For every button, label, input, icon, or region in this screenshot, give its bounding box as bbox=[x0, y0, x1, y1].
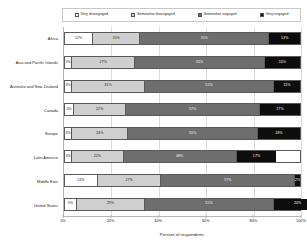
bar-segment[interactable]: 22% bbox=[74, 104, 126, 115]
bar-segment-value: 3% bbox=[65, 155, 70, 159]
legend-item-label: Very disengaged bbox=[81, 13, 109, 17]
bar-rows: 12%20%55%13%3%27%55%15%3%31%55%11%4%22%5… bbox=[64, 27, 301, 216]
bar-row[interactable]: 12%20%55%13% bbox=[64, 32, 301, 45]
category-label-1: Asia and Pacific Islands bbox=[0, 56, 61, 69]
bar-segment-value: 4% bbox=[67, 108, 72, 112]
bar-segment[interactable]: 15% bbox=[265, 57, 300, 68]
bar-row[interactable]: 3%24%55%18% bbox=[64, 127, 301, 140]
bar-row[interactable]: 3%27%55%15% bbox=[64, 56, 301, 69]
plot-area: 12%20%55%13%3%27%55%15%3%31%55%11%4%22%5… bbox=[63, 27, 301, 217]
x-axis-ticks: 0%20%40%60%80%100% bbox=[63, 218, 301, 227]
bar-segment-value: 22% bbox=[94, 155, 101, 159]
bar-segment-value: 22% bbox=[96, 108, 103, 112]
bar-segment[interactable]: 20% bbox=[274, 199, 307, 210]
bar-row[interactable]: 14%27%57%2% bbox=[64, 174, 301, 187]
x-axis-title: Percent of respondents bbox=[63, 232, 301, 237]
legend-swatch-icon bbox=[131, 13, 135, 17]
legend-swatch-icon bbox=[198, 13, 202, 17]
bar-segment-value: 12% bbox=[75, 37, 82, 41]
gridline bbox=[301, 27, 302, 216]
bar-segment-value: 27% bbox=[125, 179, 132, 183]
category-axis-labels: AfricaAsia and Pacific IslandsAustralia … bbox=[0, 27, 61, 217]
legend-item-label: Very engaged bbox=[266, 13, 289, 17]
bar-segment[interactable]: 55% bbox=[135, 57, 264, 68]
chart-legend: Very disengagedSomewhat disengagedSomewh… bbox=[62, 8, 301, 22]
bar-segment[interactable]: 24% bbox=[72, 128, 128, 139]
bar-segment-value: 24% bbox=[96, 132, 103, 136]
bar-segment-value: 11% bbox=[284, 84, 291, 88]
stacked-bar-chart: Very disengagedSomewhat disengagedSomewh… bbox=[0, 0, 307, 249]
legend-item-3[interactable]: Very engaged bbox=[260, 13, 289, 17]
category-label-7: United States bbox=[0, 199, 61, 212]
bar-segment-value: 5% bbox=[68, 202, 73, 206]
category-label-6: Middle East bbox=[0, 175, 61, 188]
bar-segment[interactable]: 55% bbox=[145, 199, 274, 210]
bar-segment-value: 13% bbox=[281, 37, 288, 41]
category-label-5: Latin America bbox=[0, 151, 61, 164]
bar-segment-value: 29% bbox=[107, 202, 114, 206]
bar-segment[interactable]: 57% bbox=[161, 175, 295, 186]
bar-segment[interactable]: 57% bbox=[126, 104, 260, 115]
bar-segment-value: 3% bbox=[65, 61, 70, 65]
bar-segment[interactable]: 17% bbox=[260, 104, 300, 115]
bar-segment[interactable]: 29% bbox=[77, 199, 145, 210]
bar-row[interactable]: 3%22%48%17% bbox=[64, 150, 301, 163]
bar-segment[interactable]: 55% bbox=[140, 33, 269, 44]
legend-item-0[interactable]: Very disengaged bbox=[75, 13, 109, 17]
bar-segment[interactable]: 2% bbox=[295, 175, 300, 186]
bar-segment[interactable]: 18% bbox=[258, 128, 300, 139]
bar-segment[interactable]: 11% bbox=[274, 81, 300, 92]
bar-segment-value: 55% bbox=[205, 202, 212, 206]
legend-item-label: Somewhat engaged bbox=[204, 13, 237, 17]
bar-segment[interactable]: 3% bbox=[65, 81, 72, 92]
bar-segment[interactable]: 3% bbox=[65, 151, 72, 162]
bar-segment[interactable]: 14% bbox=[65, 175, 98, 186]
category-label-3: Canada bbox=[0, 104, 61, 117]
bar-segment[interactable]: 55% bbox=[128, 128, 257, 139]
bar-segment-value: 20% bbox=[113, 37, 120, 41]
legend-item-label: Somewhat disengaged bbox=[137, 13, 175, 17]
bar-segment-value: 27% bbox=[100, 61, 107, 65]
x-tick-label-2: 40% bbox=[154, 218, 162, 223]
bar-segment-value: 31% bbox=[104, 84, 111, 88]
bar-segment[interactable]: 4% bbox=[65, 104, 74, 115]
bar-segment[interactable]: 31% bbox=[72, 81, 145, 92]
bar-segment-value: 15% bbox=[279, 61, 286, 65]
bar-segment-value: 55% bbox=[196, 61, 203, 65]
bar-segment-value: 3% bbox=[65, 84, 70, 88]
bar-segment[interactable]: 17% bbox=[237, 151, 277, 162]
bar-segment-value: 17% bbox=[276, 108, 283, 112]
x-tick-label-0: 0% bbox=[60, 218, 66, 223]
category-label-2: Australia and New Zealand bbox=[0, 80, 61, 93]
bar-row[interactable]: 4%22%57%17% bbox=[64, 103, 301, 116]
legend-item-1[interactable]: Somewhat disengaged bbox=[131, 13, 175, 17]
bar-segment-value: 55% bbox=[201, 37, 208, 41]
bar-segment-value: 48% bbox=[176, 155, 183, 159]
legend-swatch-icon bbox=[260, 13, 264, 17]
legend-item-2[interactable]: Somewhat engaged bbox=[198, 13, 237, 17]
bar-segment[interactable]: 12% bbox=[65, 33, 93, 44]
bar-segment[interactable]: 20% bbox=[93, 33, 140, 44]
bar-segment-value: 3% bbox=[65, 132, 70, 136]
category-label-0: Africa bbox=[0, 32, 61, 45]
x-tick-label-3: 60% bbox=[202, 218, 210, 223]
bar-row[interactable]: 5%29%55%20% bbox=[64, 198, 301, 211]
bar-segment-value: 55% bbox=[205, 84, 212, 88]
bar-segment[interactable]: 27% bbox=[98, 175, 161, 186]
bar-segment[interactable]: 55% bbox=[145, 81, 274, 92]
bar-segment-value: 18% bbox=[275, 132, 282, 136]
bar-row[interactable]: 3%31%55%11% bbox=[64, 80, 301, 93]
bar-segment[interactable]: 27% bbox=[72, 57, 135, 68]
bar-segment-value: 55% bbox=[189, 132, 196, 136]
bar-segment-value: 57% bbox=[224, 179, 231, 183]
bar-segment[interactable]: 48% bbox=[124, 151, 237, 162]
bar-segment[interactable]: 22% bbox=[72, 151, 124, 162]
category-label-4: Europe bbox=[0, 127, 61, 140]
bar-segment[interactable]: 5% bbox=[65, 199, 77, 210]
bar-segment-value: 2% bbox=[295, 179, 300, 183]
legend-swatch-icon bbox=[75, 13, 79, 17]
bar-segment[interactable]: 3% bbox=[65, 128, 72, 139]
bar-segment-value: 20% bbox=[294, 202, 301, 206]
bar-segment[interactable]: 13% bbox=[269, 33, 300, 44]
bar-segment[interactable]: 3% bbox=[65, 57, 72, 68]
